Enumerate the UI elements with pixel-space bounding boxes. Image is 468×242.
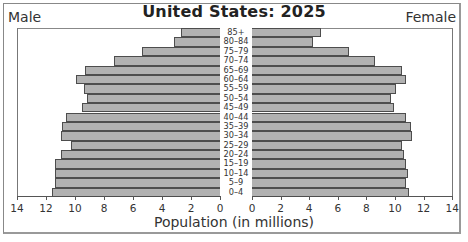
male-bar <box>82 103 220 112</box>
left-x-tick <box>75 196 76 200</box>
left-x-tick-label: 4 <box>159 202 166 214</box>
right-x-tick <box>338 196 339 200</box>
right-x-tick <box>424 196 425 200</box>
right-x-tick-label: 0 <box>249 202 256 214</box>
male-bar <box>114 56 220 65</box>
male-bar <box>181 28 220 37</box>
female-bar <box>252 37 313 46</box>
male-bar <box>87 94 220 103</box>
female-bar <box>252 75 406 84</box>
left-x-tick-label: 6 <box>130 202 137 214</box>
male-bar <box>61 150 221 159</box>
age-group-label: 0–4 <box>220 188 252 197</box>
female-bar <box>252 188 409 197</box>
left-x-tick <box>104 196 105 200</box>
male-bar <box>62 122 220 131</box>
female-bar <box>252 141 402 150</box>
male-bar <box>84 84 220 93</box>
right-x-tick <box>452 196 453 200</box>
male-bar <box>61 131 221 140</box>
male-bar <box>76 75 220 84</box>
left-x-tick-label: 2 <box>188 202 195 214</box>
female-bar <box>252 122 411 131</box>
female-bar <box>252 47 349 56</box>
left-x-tick-label: 12 <box>39 202 52 214</box>
right-x-tick-label: 14 <box>446 202 459 214</box>
female-bar <box>252 131 412 140</box>
female-bar <box>252 66 402 75</box>
male-bar <box>174 37 220 46</box>
left-x-tick <box>17 196 18 200</box>
left-x-tick-label: 0 <box>217 202 224 214</box>
male-bar <box>52 188 220 197</box>
male-bar <box>55 159 220 168</box>
right-x-tick <box>309 196 310 200</box>
left-x-tick-label: 8 <box>101 202 108 214</box>
left-x-tick-label: 14 <box>10 202 23 214</box>
right-x-tick <box>281 196 282 200</box>
female-bar <box>252 28 321 37</box>
right-x-tick-label: 10 <box>388 202 401 214</box>
female-bar <box>252 178 406 187</box>
left-x-tick <box>46 196 47 200</box>
female-bar <box>252 84 396 93</box>
male-bar <box>55 169 220 178</box>
male-label: Male <box>8 9 41 25</box>
right-x-tick-label: 12 <box>417 202 430 214</box>
right-x-tick-label: 4 <box>306 202 313 214</box>
left-x-tick-label: 10 <box>68 202 81 214</box>
male-bar <box>66 113 220 122</box>
right-x-tick-label: 2 <box>277 202 284 214</box>
female-bar <box>252 159 406 168</box>
right-x-tick-label: 6 <box>334 202 341 214</box>
male-bar <box>55 178 220 187</box>
male-bar <box>85 66 220 75</box>
right-x-tick <box>252 196 253 200</box>
male-bar <box>71 141 220 150</box>
x-axis-label: Population (in millions) <box>0 214 468 230</box>
right-x-tick <box>366 196 367 200</box>
left-x-tick <box>191 196 192 200</box>
female-bar <box>252 94 391 103</box>
female-bar <box>252 56 375 65</box>
female-bar <box>252 150 404 159</box>
left-x-tick <box>162 196 163 200</box>
male-bar <box>142 47 220 56</box>
female-bar <box>252 169 408 178</box>
left-x-tick <box>133 196 134 200</box>
female-bar <box>252 103 394 112</box>
right-x-tick <box>395 196 396 200</box>
female-label: Female <box>405 9 456 25</box>
female-bar <box>252 113 406 122</box>
chart-title: United States: 2025 <box>0 2 468 21</box>
left-x-tick <box>220 196 221 200</box>
right-x-tick-label: 8 <box>363 202 370 214</box>
